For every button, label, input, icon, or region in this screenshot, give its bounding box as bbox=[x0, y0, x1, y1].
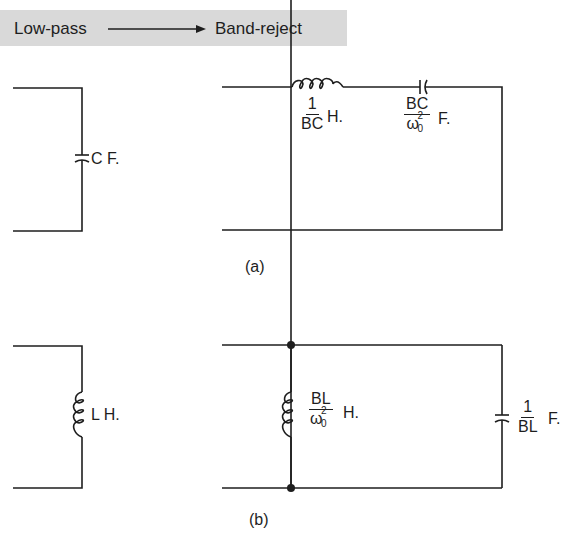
junction-node bbox=[287, 341, 295, 349]
inductor-unit-a: H. bbox=[327, 108, 343, 126]
inductor-value-b: BL ω20 bbox=[309, 391, 333, 428]
diagram-b-bandreject-circuit bbox=[222, 0, 509, 488]
capacitor-value-a: BC ω20 bbox=[404, 96, 430, 133]
circuit-diagrams bbox=[0, 0, 573, 535]
right-arrow-icon bbox=[108, 25, 206, 33]
caption-b: (b) bbox=[249, 512, 269, 528]
inductor-unit-b: H. bbox=[343, 404, 359, 422]
diagram-a-bandreject-circuit bbox=[222, 79, 502, 230]
inductor-icon bbox=[292, 79, 343, 89]
diagram-a-lowpass-circuit bbox=[13, 88, 89, 231]
inductor-l-label: L H. bbox=[91, 407, 120, 423]
inductor-icon bbox=[74, 392, 84, 437]
caption-a: (a) bbox=[245, 259, 265, 275]
capacitor-c-label: C F. bbox=[91, 151, 119, 167]
capacitor-unit-b: F. bbox=[548, 410, 560, 428]
diagram-b-lowpass-circuit bbox=[13, 346, 83, 488]
capacitor-value-b: 1 BL bbox=[518, 399, 538, 436]
capacitor-unit-a: F. bbox=[438, 110, 450, 128]
junction-node bbox=[287, 484, 295, 492]
inductor-value-a: 1 BC bbox=[301, 96, 323, 133]
